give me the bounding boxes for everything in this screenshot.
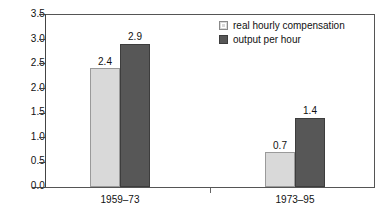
legend-item-label: real hourly compensation (233, 21, 345, 31)
legend-item-output-per-hour[interactable]: output per hour (219, 34, 345, 45)
bar-value-label: 2.9 (120, 32, 150, 42)
bar-1973-95-output-per-hour[interactable] (295, 118, 325, 187)
bar-1973-95-real-hourly-compensation[interactable] (265, 152, 295, 187)
legend-swatch-icon (219, 35, 228, 44)
bar-chart: 3.5 3.0 2.5 2.0 1.5 1.0 0.5 0.0 2.4 2.9 … (0, 0, 390, 215)
bar-1959-73-real-hourly-compensation[interactable] (90, 68, 120, 187)
legend-item-label: output per hour (233, 35, 301, 45)
x-axis-label-1973-95: 1973–95 (255, 194, 335, 205)
legend: real hourly compensation output per hour (219, 20, 345, 45)
bar-value-label: 0.7 (265, 141, 295, 151)
bar-1959-73-output-per-hour[interactable] (120, 44, 150, 187)
x-axis-separator-tick (210, 188, 211, 193)
bar-value-label: 1.4 (295, 106, 325, 116)
legend-item-real-hourly-compensation[interactable]: real hourly compensation (219, 20, 345, 31)
bar-value-label: 2.4 (90, 57, 120, 67)
x-axis-label-1959-73: 1959–73 (80, 194, 160, 205)
legend-swatch-icon (219, 21, 228, 30)
